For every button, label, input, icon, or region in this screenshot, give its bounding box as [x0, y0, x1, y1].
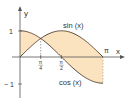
y-axis-label: y — [24, 9, 28, 18]
x-axis-arrow-icon — [120, 55, 125, 59]
y-axis-arrow-icon — [18, 6, 22, 11]
y-tick-label-minus-1: − 1 — [4, 81, 14, 88]
cos-label: cos (x) — [59, 78, 82, 87]
y-tick-label-1: 1 — [9, 28, 13, 35]
pi-label: π — [104, 47, 109, 54]
x-tick-label-pi-over-4-den: 4 — [39, 65, 42, 71]
sin-cos-plot: y x π 1 − 1 π 4 π 2 sin (x) cos (x) — [0, 0, 130, 103]
x-tick-label-pi-over-2-den: 2 — [60, 65, 63, 71]
sin-label: sin (x) — [63, 21, 84, 30]
x-axis-label: x — [116, 47, 120, 56]
